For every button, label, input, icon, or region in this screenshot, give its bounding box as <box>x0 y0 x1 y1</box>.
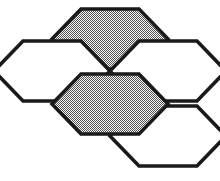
hexagon-figure <box>0 0 220 181</box>
hexagon-canvas <box>0 0 220 181</box>
